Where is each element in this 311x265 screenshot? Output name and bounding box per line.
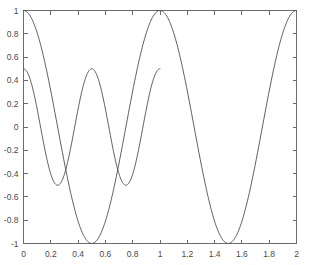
figure-canvas: 00.20.40.60.811.21.41.61.82-1-0.8-0.6-0.… xyxy=(0,0,311,265)
chart-plot: 00.20.40.60.811.21.41.61.82-1-0.8-0.6-0.… xyxy=(0,0,311,265)
y-tick-label: 0.2 xyxy=(7,99,19,109)
x-tick-label: 1.4 xyxy=(209,249,221,259)
data-series-1 xyxy=(24,11,297,244)
y-tick-label: 0 xyxy=(14,122,19,132)
y-tick-label: -0.4 xyxy=(4,169,19,179)
data-series-2 xyxy=(24,69,161,186)
x-tick-label: 1.8 xyxy=(263,249,275,259)
y-tick-label: 0.4 xyxy=(7,75,19,85)
y-tick-label: 0.8 xyxy=(7,29,19,39)
x-tick-label: 1.2 xyxy=(181,249,193,259)
x-tick-label: 2 xyxy=(294,249,299,259)
plot-box-frame xyxy=(24,11,297,244)
x-tick-label: 0.8 xyxy=(127,249,139,259)
y-tick-label: -1 xyxy=(11,239,19,249)
x-tick-label: 0.6 xyxy=(99,249,111,259)
y-tick-label: -0.6 xyxy=(4,192,19,202)
x-tick-label: 1 xyxy=(158,249,163,259)
y-tick-label: -0.2 xyxy=(4,145,19,155)
axes-group: 00.20.40.60.811.21.41.61.82-1-0.8-0.6-0.… xyxy=(4,6,299,259)
x-tick-label: 0.2 xyxy=(45,249,57,259)
x-tick-label: 1.6 xyxy=(236,249,248,259)
y-tick-label: -0.8 xyxy=(4,215,19,225)
x-tick-label: 0 xyxy=(21,249,26,259)
y-tick-label: 1 xyxy=(14,6,19,16)
x-tick-label: 0.4 xyxy=(72,249,84,259)
y-tick-label: 0.6 xyxy=(7,52,19,62)
